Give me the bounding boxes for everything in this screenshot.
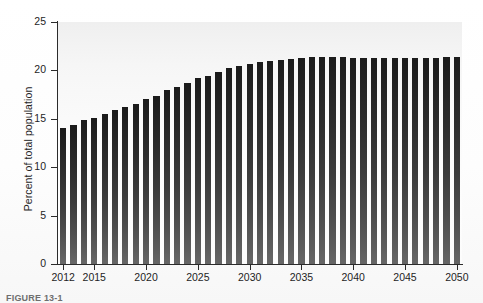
x-tick-mark xyxy=(301,265,302,270)
figure-caption: FIGURE 13-1 xyxy=(6,293,476,303)
bar xyxy=(423,58,429,264)
bar xyxy=(402,58,408,264)
bar xyxy=(236,66,242,264)
figure-container: Percent of total population 0510152025 2… xyxy=(0,0,483,303)
bar xyxy=(174,87,180,264)
bar xyxy=(433,58,439,264)
bar xyxy=(278,60,284,264)
x-tick-label: 2050 xyxy=(434,271,480,283)
x-tick-mark xyxy=(94,265,95,270)
bar xyxy=(122,107,128,264)
x-tick-label: 2035 xyxy=(278,271,324,283)
x-tick-label: 2025 xyxy=(175,271,221,283)
plot-area xyxy=(58,22,462,264)
bar xyxy=(184,83,190,264)
bar xyxy=(329,57,335,264)
bar xyxy=(81,120,87,264)
bar xyxy=(381,58,387,264)
x-tick-label: 2045 xyxy=(382,271,428,283)
y-tick-mark xyxy=(51,216,57,217)
bar xyxy=(412,58,418,264)
y-tick-label: 15 xyxy=(0,112,46,124)
y-tick-label: 0 xyxy=(0,257,46,269)
bar xyxy=(288,59,294,264)
bar xyxy=(112,110,118,264)
bar xyxy=(215,72,221,264)
bar xyxy=(392,58,398,264)
y-tick-label: 10 xyxy=(0,160,46,172)
x-tick-label: 2015 xyxy=(71,271,117,283)
bar xyxy=(298,58,304,264)
y-tick-mark xyxy=(51,70,57,71)
bar xyxy=(195,78,201,264)
x-tick-mark xyxy=(405,265,406,270)
bar xyxy=(205,76,211,264)
y-tick-label: 5 xyxy=(0,209,46,221)
bar xyxy=(91,118,97,264)
x-axis-line xyxy=(57,264,463,265)
bar xyxy=(133,104,139,264)
bar xyxy=(319,57,325,264)
y-tick-label: 20 xyxy=(0,63,46,75)
bar xyxy=(164,90,170,264)
bar xyxy=(309,57,315,264)
bar xyxy=(443,57,449,264)
y-tick-mark xyxy=(51,167,57,168)
x-tick-mark xyxy=(198,265,199,270)
bar xyxy=(153,96,159,264)
x-tick-mark xyxy=(63,265,64,270)
bar xyxy=(247,64,253,264)
bar xyxy=(267,61,273,264)
x-tick-mark xyxy=(250,265,251,270)
x-tick-mark xyxy=(146,265,147,270)
bar xyxy=(143,99,149,264)
bar xyxy=(70,125,76,264)
x-tick-label: 2020 xyxy=(123,271,169,283)
y-tick-mark xyxy=(51,119,57,120)
x-tick-mark xyxy=(457,265,458,270)
bar xyxy=(371,58,377,264)
bar xyxy=(454,57,460,264)
bar xyxy=(226,68,232,264)
x-tick-label: 2030 xyxy=(227,271,273,283)
bar xyxy=(60,128,66,264)
bar xyxy=(350,58,356,264)
x-tick-label: 2040 xyxy=(330,271,376,283)
y-tick-mark xyxy=(51,264,57,265)
bar xyxy=(102,114,108,264)
bar xyxy=(340,57,346,264)
bar xyxy=(360,58,366,264)
y-tick-mark xyxy=(51,22,57,23)
bar xyxy=(257,62,263,264)
y-tick-label: 25 xyxy=(0,15,46,27)
x-tick-mark xyxy=(353,265,354,270)
